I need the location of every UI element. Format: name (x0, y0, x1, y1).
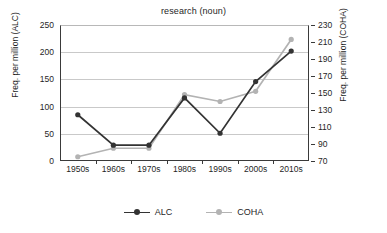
data-point-coha (217, 99, 222, 104)
data-point-coha (289, 37, 294, 42)
data-point-coha (253, 89, 258, 94)
chart-legend: ALCCOHA (0, 207, 387, 217)
legend-label: ALC (155, 207, 173, 217)
data-point-alc (182, 95, 187, 100)
x-axis-tick-mark (167, 161, 168, 164)
legend-item-coha[interactable]: COHA (206, 207, 263, 217)
data-point-alc (217, 131, 222, 136)
chart-container: research (noun) 050100150200250 Freq. pe… (0, 0, 387, 233)
x-axis-tick-mark (202, 161, 203, 164)
data-point-alc (75, 112, 80, 117)
data-point-alc (146, 143, 151, 148)
x-axis-tick-mark (238, 161, 239, 164)
legend-marker-icon (124, 208, 150, 217)
data-point-alc (289, 49, 294, 54)
legend-item-alc[interactable]: ALC (124, 207, 173, 217)
data-point-coha (75, 154, 80, 159)
data-series-layer (0, 0, 387, 233)
legend-marker-icon (206, 208, 232, 217)
data-point-alc (253, 79, 258, 84)
legend-label: COHA (237, 207, 263, 217)
x-axis-tick-mark (96, 161, 97, 164)
x-axis-tick-mark (273, 161, 274, 164)
data-point-alc (111, 143, 116, 148)
x-axis-tick-mark (131, 161, 132, 164)
